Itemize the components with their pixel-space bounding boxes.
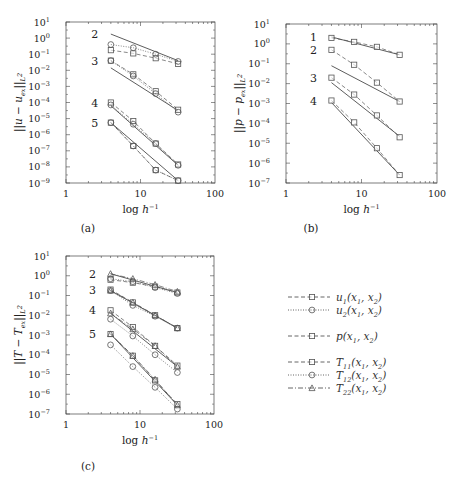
y-tick-label: 10−4 (28, 348, 50, 360)
legend-item-u2: u2(x1, x2) (288, 304, 382, 319)
y-tick-label: 10−1 (248, 57, 270, 69)
legend-label: T22(x1, x2) (336, 382, 386, 397)
reference-slope-line (111, 123, 178, 181)
reference-slope-line (111, 334, 178, 405)
reference-slope-line (111, 34, 178, 61)
order-label: 5 (91, 117, 98, 130)
order-group-2: 2 (89, 268, 180, 297)
order-label: 1 (310, 31, 317, 44)
legend-item-p: p(x1, x2) (288, 330, 378, 345)
panel-caption: (c) (81, 460, 95, 472)
reference-slope-line (331, 103, 399, 176)
y-tick-label: 10−2 (28, 309, 50, 321)
y-tick-label: 10−5 (28, 368, 50, 380)
series-T12 (111, 345, 178, 409)
x-tick-label: 10 (355, 188, 367, 199)
panel-caption: (a) (81, 222, 95, 234)
x-tick-label: 10 (134, 188, 146, 199)
reference-slope-line (111, 106, 178, 166)
y-tick-label: 10−9 (28, 177, 50, 189)
series-u1 (111, 61, 178, 110)
order-group-4: 4 (310, 95, 402, 178)
y-tick-label: 10−7 (28, 408, 50, 420)
legend-item-T22: T22(x1, x2) (288, 382, 386, 397)
y-tick-label: 101 (254, 18, 270, 30)
y-tick-label: 10−5 (248, 137, 270, 149)
x-tick-label: 100 (205, 419, 223, 430)
y-tick-label: 100 (254, 37, 270, 49)
legend-label: u2(x1, x2) (336, 304, 382, 319)
x-tick-label: 100 (206, 188, 224, 199)
legend: u1(x1, x2)u2(x1, x2)p(x1, x2)T11(x1, x2)… (288, 291, 386, 397)
y-tick-label: 101 (34, 250, 50, 262)
x-axis-label: log h−1 (122, 434, 158, 446)
y-tick-label: 10−7 (248, 177, 270, 189)
reference-slope-line (111, 274, 178, 293)
x-tick-label: 100 (428, 188, 446, 199)
order-label: 4 (89, 304, 96, 317)
series-T12 (111, 319, 178, 372)
y-tick-label: 10−1 (28, 48, 50, 60)
y-tick-label: 10−5 (28, 112, 50, 124)
y-tick-label: 101 (34, 16, 50, 28)
y-tick-label: 10−4 (28, 96, 50, 108)
order-label: 2 (91, 28, 98, 41)
order-label: 3 (89, 284, 96, 297)
order-group-3: 3 (310, 72, 402, 140)
reference-slope-line (331, 83, 399, 137)
x-tick-label: 1 (63, 188, 69, 199)
y-tick-label: 10−4 (248, 117, 270, 129)
chart-panel-c: 11010010110010−110−210−310−410−510−610−7… (12, 250, 223, 473)
x-axis-label: log h−1 (343, 203, 379, 215)
x-tick-label: 10 (134, 419, 146, 430)
y-tick-label: 10−6 (28, 128, 50, 140)
y-tick-label: 10−8 (28, 160, 50, 172)
order-label: 3 (310, 72, 317, 85)
series-p (331, 50, 399, 102)
y-tick-label: 10−6 (28, 388, 50, 400)
order-group-4: 4 (91, 97, 181, 169)
reference-slope-line (331, 66, 399, 102)
order-label: 4 (310, 95, 317, 108)
y-tick-label: 10−7 (28, 144, 50, 156)
order-label: 4 (91, 97, 98, 110)
order-group-5: 5 (89, 328, 180, 412)
x-tick-label: 1 (283, 188, 289, 199)
order-label: 2 (310, 44, 317, 57)
x-axis-label: log h−1 (122, 203, 158, 215)
y-tick-label: 100 (34, 269, 50, 281)
y-tick-label: 10−3 (28, 329, 50, 341)
y-tick-label: 10−2 (248, 77, 270, 89)
y-tick-label: 100 (34, 32, 50, 44)
figure-canvas: 11010010110010−110−210−310−410−510−610−7… (0, 0, 452, 486)
reference-slope-line (111, 68, 178, 111)
y-tick-label: 10−2 (28, 64, 50, 76)
reference-slope-line (111, 313, 178, 366)
order-group-2: 2 (91, 28, 181, 66)
chart-panel-a: 11010010110010−110−210−310−410−510−610−7… (12, 16, 224, 235)
order-label: 3 (91, 55, 98, 68)
y-tick-label: 10−6 (248, 157, 270, 169)
plot-frame (286, 24, 437, 183)
y-tick-label: 10−3 (28, 80, 50, 92)
chart-panel-b: 11010010110010−110−210−310−410−510−610−7… (232, 18, 446, 235)
order-label: 5 (89, 328, 96, 341)
y-axis-label: ||u − uex||L2 (12, 73, 27, 132)
x-tick-label: 1 (63, 419, 69, 430)
y-tick-label: 10−3 (248, 97, 270, 109)
panel-caption: (b) (304, 222, 319, 234)
order-group-3: 3 (91, 55, 181, 115)
legend-label: p(x1, x2) (336, 330, 378, 345)
legend-label: u1(x1, x2) (336, 291, 382, 306)
y-axis-label: ||T − Tex||L2 (12, 305, 27, 365)
order-group-1: 1 (310, 31, 402, 57)
y-tick-label: 10−1 (28, 289, 50, 301)
series-T11 (111, 290, 178, 329)
order-label: 2 (89, 268, 96, 281)
y-axis-label: ||p − pex||L2 (232, 74, 247, 133)
